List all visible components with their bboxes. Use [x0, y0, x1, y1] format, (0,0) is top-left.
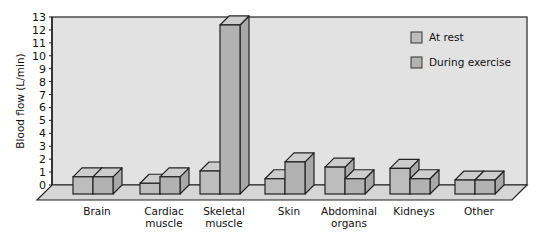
- y-tick-label: 12: [32, 24, 46, 37]
- y-tick-label: 10: [32, 50, 46, 63]
- x-category-label: muscle: [145, 217, 183, 229]
- legend-swatch-at-rest: [411, 32, 422, 43]
- x-category-label: Cardiac: [144, 205, 184, 217]
- x-category-label: Skeletal: [203, 205, 245, 217]
- y-tick-label: 7: [39, 89, 46, 102]
- x-category-label: muscle: [205, 217, 243, 229]
- x-category-label: Abdominal: [321, 205, 377, 217]
- y-tick-label: 2: [39, 153, 46, 166]
- bar-during-exercise: [285, 153, 314, 194]
- legend-swatch-during-exercise: [411, 57, 422, 68]
- x-category-label: organs: [331, 217, 367, 229]
- y-tick-label: 11: [32, 37, 46, 50]
- legend-label-at-rest: At rest: [429, 31, 464, 43]
- y-tick-label: 9: [39, 63, 46, 76]
- y-tick-label: 1: [39, 166, 46, 179]
- y-tick-label: 13: [32, 11, 46, 24]
- bar-during-exercise: [160, 168, 189, 194]
- legend-label-during-exercise: During exercise: [429, 56, 511, 68]
- x-category-label: Kidneys: [393, 205, 434, 217]
- y-tick-label: 6: [39, 101, 46, 114]
- y-tick-label: 8: [39, 76, 46, 89]
- blood-flow-chart: 012345678910111213 Blood flow (L/min) Br…: [0, 0, 539, 240]
- x-category-label: Brain: [83, 205, 111, 217]
- x-category-label: Skin: [278, 205, 300, 217]
- bar-during-exercise: [220, 16, 249, 194]
- bar-during-exercise: [93, 168, 122, 194]
- y-tick-label: 3: [39, 140, 46, 153]
- x-axis-labels: BrainCardiacmuscleSkeletalmuscleSkinAbdo…: [83, 205, 494, 229]
- x-category-label: Other: [464, 205, 494, 217]
- y-axis-label: Blood flow (L/min): [14, 53, 26, 148]
- y-tick-label: 0: [39, 179, 46, 192]
- y-tick-label: 5: [39, 114, 46, 127]
- y-axis: 012345678910111213: [32, 11, 52, 192]
- y-tick-label: 4: [39, 127, 46, 140]
